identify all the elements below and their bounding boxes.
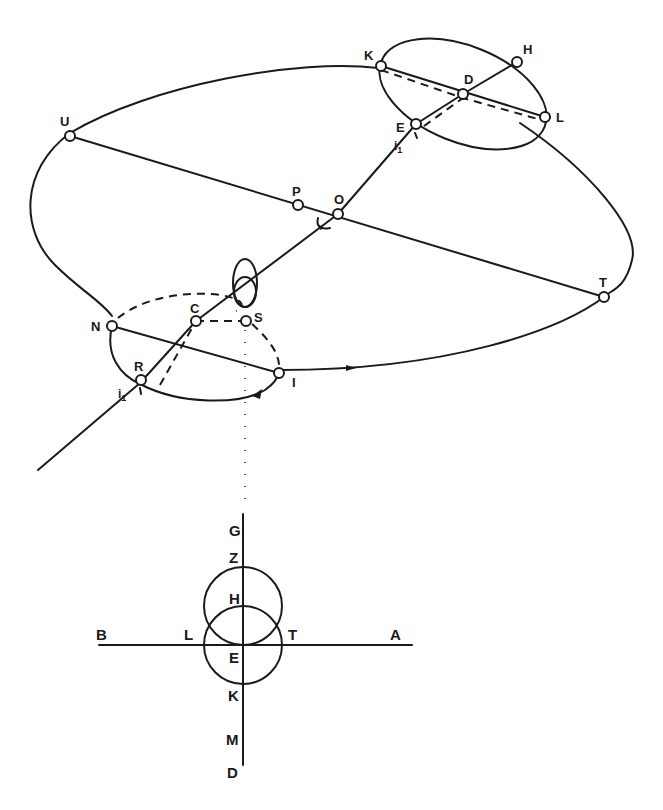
point-H — [512, 57, 522, 67]
label-O: O — [334, 192, 344, 207]
label-K-lower: K — [228, 687, 239, 704]
line-C-O — [196, 214, 338, 321]
point-K — [376, 61, 386, 71]
label-C: C — [190, 301, 200, 316]
point-E — [411, 119, 421, 129]
angle-mark-R — [140, 388, 141, 394]
label-N: N — [91, 319, 100, 334]
point-N — [107, 321, 117, 331]
label-Z: Z — [229, 549, 238, 566]
label-P: P — [292, 184, 301, 199]
label-E-lower: E — [229, 649, 239, 666]
point-C — [191, 316, 201, 326]
label-G: G — [229, 522, 241, 539]
point-S — [241, 316, 251, 326]
point-L — [540, 112, 550, 122]
lower-epicycle — [110, 294, 356, 401]
label-L-lower: L — [184, 626, 193, 643]
label-B: B — [96, 626, 107, 643]
label-H-lower: H — [229, 590, 240, 607]
diagram-canvas: U P O T K H D L E i1 N C S R I i1 G Z H … — [0, 0, 663, 810]
label-D-lower: D — [227, 764, 238, 781]
line-O-E — [338, 124, 416, 214]
label-T: T — [599, 275, 607, 290]
label-H: H — [523, 42, 532, 57]
point-U — [65, 131, 75, 141]
label-U: U — [60, 114, 69, 129]
line-R-C — [140, 321, 196, 383]
point-D — [458, 89, 468, 99]
point-P — [293, 200, 303, 210]
label-A: A — [390, 626, 401, 643]
lower-figure: G Z H B L T A E K M D — [96, 514, 412, 781]
point-I — [274, 368, 284, 378]
label-D: D — [464, 72, 473, 87]
label-i1-lower: i1 — [118, 387, 126, 403]
label-S: S — [254, 310, 263, 325]
point-T — [599, 292, 609, 302]
label-T-lower: T — [288, 626, 297, 643]
point-O — [333, 209, 343, 219]
point-R — [136, 375, 146, 385]
label-K: K — [364, 48, 374, 63]
line-E-D — [416, 94, 463, 124]
angle-mark-E — [415, 133, 417, 138]
label-R: R — [134, 359, 144, 374]
label-E: E — [396, 120, 405, 135]
label-I: I — [292, 375, 296, 390]
label-L: L — [556, 110, 564, 125]
label-M: M — [226, 731, 239, 748]
